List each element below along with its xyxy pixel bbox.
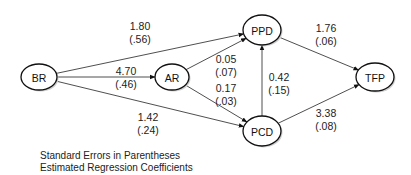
edges-layer <box>56 34 359 127</box>
standard-error-value: (.08) <box>315 120 337 132</box>
standard-error-value: (.46) <box>115 78 137 90</box>
edge-label-pcd-to-ppd: 0.42(.15) <box>268 71 290 96</box>
edge-label-br-to-ar: 4.70(.46) <box>115 65 137 90</box>
node-label: PCD <box>251 126 274 138</box>
edge-label-ar-to-ppd: 0.05(.07) <box>215 53 237 78</box>
coefficient-value: 0.17 <box>216 82 237 94</box>
edge-label-ar-to-pcd: 0.17(.03) <box>215 82 237 107</box>
edge-label-br-to-ppd: 1.80(.56) <box>129 20 151 45</box>
legend-coefficients-note: Estimated Regression Coefficients <box>40 162 193 174</box>
coefficient-value: 4.70 <box>116 65 137 77</box>
path-diagram: BRARPPDPCDTFP 1.80(.56)4.70(.46)1.42(.24… <box>0 0 411 175</box>
coefficient-value: 3.38 <box>316 107 337 119</box>
standard-error-value: (.15) <box>268 84 290 96</box>
standard-error-value: (.24) <box>137 124 159 136</box>
standard-error-value: (.03) <box>215 95 237 107</box>
node-br: BR <box>21 64 59 92</box>
node-label: TFP <box>365 72 385 84</box>
coefficient-value: 1.76 <box>316 22 337 34</box>
node-label: AR <box>165 72 180 84</box>
node-ar: AR <box>155 64 191 92</box>
node-tfp: TFP <box>356 63 396 93</box>
node-ppd: PPD <box>243 15 283 47</box>
standard-error-value: (.07) <box>215 66 237 78</box>
node-label: PPD <box>251 25 273 37</box>
node-label: BR <box>32 72 47 84</box>
edge-label-pcd-to-tfp: 3.38(.08) <box>315 107 337 132</box>
standard-error-value: (.06) <box>315 35 337 47</box>
nodes-layer: BRARPPDPCDTFP <box>21 15 396 148</box>
coefficient-value: 1.42 <box>138 111 159 123</box>
coefficient-value: 0.42 <box>269 71 290 83</box>
standard-error-value: (.56) <box>129 33 151 45</box>
edge-label-ppd-to-tfp: 1.76(.06) <box>315 22 337 47</box>
coefficient-value: 0.05 <box>216 53 237 65</box>
edge-label-br-to-pcd: 1.42(.24) <box>137 111 159 136</box>
legend: Standard Errors in Parentheses Estimated… <box>40 150 193 173</box>
coefficient-value: 1.80 <box>130 20 151 32</box>
node-pcd: PCD <box>243 116 283 148</box>
legend-standard-errors-note: Standard Errors in Parentheses <box>40 150 193 162</box>
